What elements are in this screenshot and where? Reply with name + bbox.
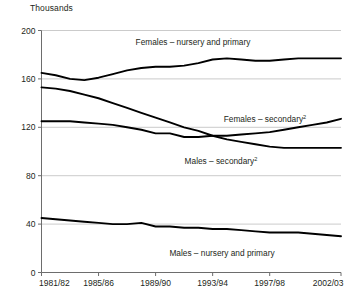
x-axis-tick-label: 1989/90: [140, 278, 171, 288]
x-axis-tick-label: 2002/03: [313, 278, 344, 288]
x-axis-tick-label: 1997/98: [254, 278, 285, 288]
annotation-males-secondary: Males – secondary2: [185, 156, 258, 166]
x-axis-tick-labels: 1981/821985/861989/901993/941997/982002/…: [39, 273, 344, 288]
line-chart-plot: 04080120160200 1981/821985/861989/901993…: [0, 0, 355, 302]
annotation-females-nursery-and-primary: Females – nursery and primary: [136, 37, 252, 47]
annotation-label: Males – nursery and primary: [169, 248, 275, 258]
x-axis-tick-label: 1993/94: [197, 278, 228, 288]
chart-axes: [42, 31, 342, 273]
annotation-males-nursery-and-primary: Males – nursery and primary: [169, 248, 275, 258]
y-axis-tick-label: 0: [31, 268, 36, 278]
annotation-label: Females – secondary: [224, 114, 304, 124]
annotation-females-secondary: Females – secondary2: [224, 114, 306, 124]
y-axis-tick-labels: 04080120160200: [21, 26, 41, 278]
x-axis-tick-label: 1981/82: [39, 278, 70, 288]
y-axis-tick-label: 160: [21, 74, 35, 84]
y-axis-tick-label: 120: [21, 122, 35, 132]
series-line: [42, 58, 342, 80]
series-line: [42, 218, 342, 236]
y-axis-tick-label: 40: [26, 219, 36, 229]
annotation-label: Males – secondary: [185, 156, 255, 166]
chart-container: Thousands 04080120160200 1981/821985/861…: [0, 0, 355, 302]
x-axis-tick-label: 1985/86: [83, 278, 114, 288]
y-axis-tick-label: 200: [21, 26, 35, 36]
annotation-footnote-marker: 2: [303, 114, 306, 120]
annotation-label: Females – nursery and primary: [136, 37, 252, 47]
annotation-footnote-marker: 2: [254, 156, 257, 162]
y-axis-tick-label: 80: [26, 171, 36, 181]
data-series: [42, 58, 342, 236]
